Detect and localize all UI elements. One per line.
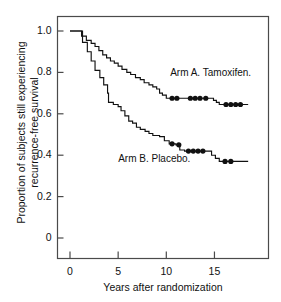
series-line-arm-b: [70, 31, 248, 161]
censor-marker: [174, 96, 179, 101]
censor-marker: [200, 148, 205, 153]
survival-chart-figure: Proportion of subjects still experiencin…: [0, 0, 281, 302]
plot-frame: [58, 17, 269, 259]
plot-canvas: [0, 0, 281, 302]
censor-marker: [228, 102, 233, 107]
censor-marker: [223, 102, 228, 107]
censor-marker: [228, 159, 233, 164]
censor-marker: [169, 96, 174, 101]
censor-marker: [222, 159, 227, 164]
censor-marker: [193, 96, 198, 101]
censor-marker: [195, 148, 200, 153]
censor-marker: [203, 96, 208, 101]
censor-marker: [238, 102, 243, 107]
censor-marker: [169, 141, 174, 146]
censor-marker: [233, 102, 238, 107]
censor-marker: [191, 148, 196, 153]
censor-marker: [176, 142, 181, 147]
series-line-arm-a: [70, 31, 248, 104]
censor-marker: [197, 96, 202, 101]
censor-marker: [186, 148, 191, 153]
censor-marker: [188, 96, 193, 101]
